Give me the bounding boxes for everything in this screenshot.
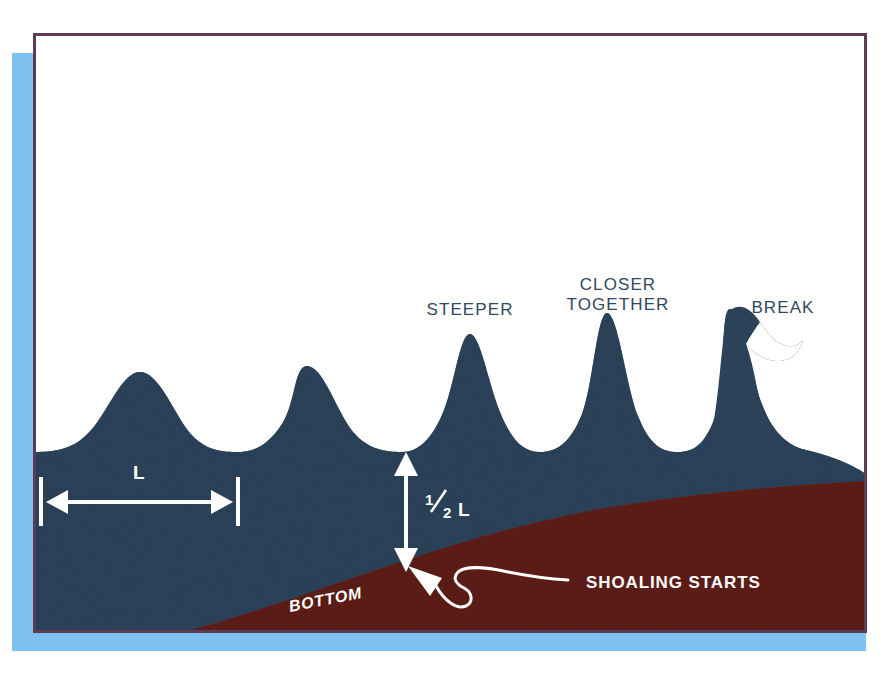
closer-together-label-line2: TOGETHER (567, 295, 670, 314)
diagram-stage: L 1 2 L BOTTOM SHOALING STARTS (0, 0, 893, 681)
wave-shoaling-diagram: L 1 2 L BOTTOM SHOALING STARTS (0, 0, 893, 681)
break-label: BREAK (751, 298, 814, 317)
wavelength-label: L (133, 462, 145, 483)
shoaling-label: SHOALING STARTS (586, 573, 761, 592)
steeper-label: STEEPER (426, 300, 513, 319)
fraction-unit-label: L (458, 499, 470, 520)
wavelength-arrow-shaft (52, 500, 227, 504)
fraction-denominator: 2 (443, 504, 452, 521)
closer-together-label-line1: CLOSER (580, 275, 657, 294)
depth-arrow-shaft (404, 464, 408, 560)
wavelength-tick-left (39, 477, 43, 526)
fraction-numerator: 1 (425, 491, 434, 508)
wavelength-tick-right (236, 477, 240, 526)
